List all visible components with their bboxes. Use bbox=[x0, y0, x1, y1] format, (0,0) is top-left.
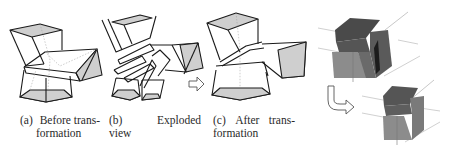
caption-panel-a: (a)Before trans- formation bbox=[20, 114, 100, 140]
panel-c-wireframe bbox=[207, 13, 306, 100]
render-top-cube bbox=[318, 12, 420, 82]
caption-a-label: (a) bbox=[20, 114, 33, 127]
panel-a-wireframe bbox=[10, 24, 102, 102]
render-bottom-cube bbox=[362, 80, 440, 145]
caption-c-label: (c) bbox=[213, 114, 226, 127]
panel-b-wireframe bbox=[102, 15, 203, 100]
curved-arrow-icon bbox=[328, 86, 354, 114]
caption-a-line1: Before trans- bbox=[40, 114, 100, 127]
caption-b-label: (b) bbox=[109, 114, 122, 127]
caption-b-word: Exploded bbox=[157, 114, 201, 127]
caption-a-line2: formation bbox=[20, 127, 100, 140]
caption-panel-c: (c)Aftertrans- formation bbox=[213, 114, 295, 140]
caption-b-line2: view bbox=[109, 127, 201, 140]
caption-panel-b: (b)Exploded view bbox=[109, 114, 201, 140]
right-arrow-icon bbox=[189, 77, 204, 91]
caption-c-word1: After bbox=[235, 114, 259, 127]
caption-c-line2: formation bbox=[213, 127, 295, 140]
caption-c-word2: trans- bbox=[269, 114, 295, 127]
